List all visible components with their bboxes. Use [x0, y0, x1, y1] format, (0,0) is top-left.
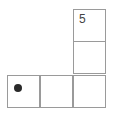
dot-marker-icon [14, 84, 22, 92]
cell-middle [73, 41, 106, 74]
cell-top: 5 [73, 9, 106, 42]
cell-bottom-center [40, 75, 73, 108]
cell-bottom-right [73, 75, 106, 108]
cell-bottom-left [7, 75, 40, 108]
cell-number: 5 [79, 12, 86, 26]
